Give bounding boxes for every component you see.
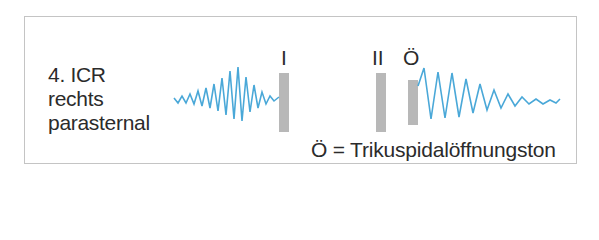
heart-sound-bar-second [376,73,386,132]
opening-snap-bar [408,80,418,125]
legend-text: Ö = Trikuspidalöffnungston [311,137,556,163]
diastolic-murmur-waveform [418,68,560,119]
systolic-murmur-waveform [174,67,279,121]
heart-sound-bar-first [279,73,289,132]
